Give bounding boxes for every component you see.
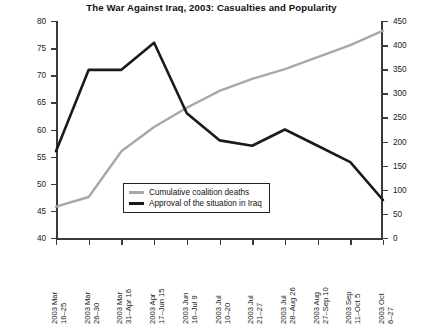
y-tick-label-right: 300 (393, 89, 421, 98)
legend-item: Approval of the situation in Iraq (129, 198, 262, 209)
y-tick-label-left: 70 (20, 71, 46, 80)
x-tick (121, 240, 122, 245)
y-tick-right (383, 69, 388, 70)
x-tick-label-line: 6–27 (387, 246, 396, 324)
x-tick-label: 2003 Mar31–Apr 16 (116, 246, 133, 324)
y-tick-label-left: 55 (20, 152, 46, 161)
x-tick-label: 2003 Aug27–Sep 10 (313, 246, 330, 324)
legend-swatch (129, 202, 144, 205)
x-tick-label-line: 27–Sep 10 (321, 246, 330, 324)
y-tick-right (383, 166, 388, 167)
x-tick-label: 2003 Mar16–25 (51, 246, 68, 324)
x-tick-label-line: 17–Jun 15 (158, 246, 167, 324)
x-tick-label-line: 10–20 (223, 246, 232, 324)
x-tick (187, 240, 188, 245)
y-tick-label-left: 40 (20, 234, 46, 243)
x-tick (285, 240, 286, 245)
y-tick-label-right: 200 (393, 137, 421, 146)
y-tick-right (383, 142, 388, 143)
x-tick-label-line: 21–27 (256, 246, 265, 324)
y-tick-label-right: 350 (393, 65, 421, 74)
x-tick (56, 240, 57, 245)
y-tick-right (383, 214, 388, 215)
x-tick (350, 240, 351, 245)
x-tick-label: 2003 Jun16–Jul 9 (182, 246, 199, 324)
legend-label: Approval of the situation in Iraq (149, 199, 262, 208)
legend-label: Cumulative coalition deaths (149, 188, 249, 197)
y-tick-label-right: 400 (393, 41, 421, 50)
x-tick (383, 240, 384, 245)
x-tick-label-line: 16–Jul 9 (190, 246, 199, 324)
y-tick-label-right: 450 (393, 17, 421, 26)
x-tick (318, 240, 319, 245)
y-tick-label-right: 0 (393, 234, 421, 243)
legend-swatch (129, 191, 144, 194)
y-tick-right (383, 190, 388, 191)
y-tick-label-left: 65 (20, 98, 46, 107)
x-tick-label-line: 26–30 (92, 246, 101, 324)
x-tick-label: 2003 Apr17–Jun 15 (149, 246, 166, 324)
x-tick (220, 240, 221, 245)
chart-title: The War Against Iraq, 2003: Casualties a… (0, 2, 423, 13)
series-line (56, 31, 383, 207)
x-tick-label: 2003 Jul10–20 (215, 246, 232, 324)
x-tick-label-line: 11–Oct 5 (354, 246, 363, 324)
y-tick-right (383, 117, 388, 118)
x-tick (89, 240, 90, 245)
x-tick-label: 2003 Jul28–Aug 26 (280, 246, 297, 324)
x-tick-label: 2003 Sep11–Oct 5 (345, 246, 362, 324)
y-tick-label-left: 80 (20, 17, 46, 26)
y-tick-right (383, 93, 388, 94)
y-tick-label-left: 50 (20, 179, 46, 188)
y-tick-label-right: 100 (393, 185, 421, 194)
x-tick-label: 2003 Mar26–30 (84, 246, 101, 324)
y-tick-label-left: 60 (20, 125, 46, 134)
legend-item: Cumulative coalition deaths (129, 187, 262, 198)
y-tick-label-right: 150 (393, 161, 421, 170)
y-tick-label-left: 45 (20, 206, 46, 215)
x-tick-label-line: 16–25 (60, 246, 69, 324)
x-tick (154, 240, 155, 245)
y-tick-label-left: 75 (20, 44, 46, 53)
y-tick-right (383, 45, 388, 46)
x-tick-label-line: 31–Apr 16 (125, 246, 134, 324)
x-tick-label-line: 28–Aug 26 (288, 246, 297, 324)
y-tick-right (383, 21, 388, 22)
series-line (56, 43, 383, 200)
y-tick-label-right: 50 (393, 209, 421, 218)
x-tick-label: 2003 Oct6–27 (378, 246, 395, 324)
x-tick (252, 240, 253, 245)
x-tick-label: 2003 Jul21–27 (247, 246, 264, 324)
y-tick-label-right: 250 (393, 113, 421, 122)
chart-legend: Cumulative coalition deathsApproval of t… (123, 183, 270, 213)
